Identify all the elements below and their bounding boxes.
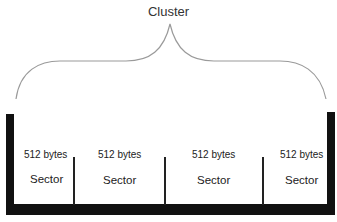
sector-2-size: 512 bytes bbox=[98, 149, 141, 160]
sector-1-size: 512 bytes bbox=[24, 149, 67, 160]
sector-1-label: Sector bbox=[30, 173, 63, 185]
left-wall bbox=[6, 114, 14, 215]
sector-2-label: Sector bbox=[103, 174, 136, 186]
right-wall bbox=[327, 112, 335, 215]
sector-divider-3 bbox=[262, 157, 264, 205]
sector-divider-1 bbox=[73, 157, 75, 205]
sector-3-size: 512 bytes bbox=[192, 149, 235, 160]
sector-4-size: 512 bytes bbox=[280, 149, 323, 160]
sector-divider-2 bbox=[164, 157, 166, 205]
base-plate bbox=[6, 204, 335, 215]
sector-4-label: Sector bbox=[285, 174, 318, 186]
sector-3-label: Sector bbox=[197, 174, 230, 186]
cluster-brace bbox=[0, 0, 337, 222]
